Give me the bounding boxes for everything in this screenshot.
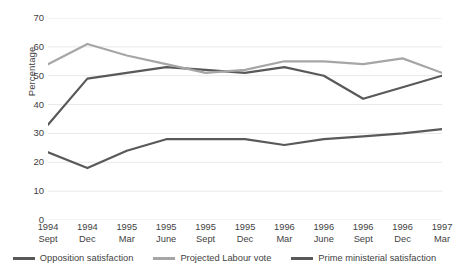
x-tick-year: 1996 (383, 222, 423, 234)
x-tick-label: 1994Sept (28, 222, 68, 245)
x-tick-month: Mar (107, 234, 147, 246)
x-tick-label: 1996Sept (343, 222, 383, 245)
plot-area (48, 18, 442, 220)
y-tick-label: 70 (18, 13, 44, 23)
y-tick-label: 10 (18, 186, 44, 196)
x-tick-year: 1994 (67, 222, 107, 234)
legend-item-0[interactable]: Opposition satisfaction (13, 253, 134, 264)
x-tick-month: June (304, 234, 344, 246)
x-tick-month: Mar (422, 234, 457, 246)
x-tick-year: 1995 (186, 222, 226, 234)
x-tick-month: Sept (186, 234, 226, 246)
legend-item-1[interactable]: Projected Labour vote (153, 253, 271, 264)
x-tick-month: Dec (383, 234, 423, 246)
x-tick-label: 1995Dec (225, 222, 265, 245)
x-axis-tick-labels: 1994Sept1994Dec1995Mar1995June1995Sept19… (48, 222, 442, 248)
y-tick-label: 40 (18, 100, 44, 110)
x-tick-year: 1995 (146, 222, 186, 234)
x-tick-label: 1997Mar (422, 222, 457, 245)
y-tick-label: 30 (18, 128, 44, 138)
series-line-1 (48, 44, 442, 73)
x-tick-label: 1995Sept (186, 222, 226, 245)
legend-swatch-icon (153, 257, 175, 260)
x-tick-label: 1994Dec (67, 222, 107, 245)
x-tick-year: 1996 (264, 222, 304, 234)
x-tick-month: Sept (28, 234, 68, 246)
x-tick-month: June (146, 234, 186, 246)
series-lines (48, 44, 442, 168)
x-tick-month: Sept (343, 234, 383, 246)
legend-label: Prime ministerial satisfaction (318, 253, 436, 264)
x-tick-year: 1994 (28, 222, 68, 234)
x-tick-year: 1997 (422, 222, 457, 234)
legend-label: Opposition satisfaction (40, 253, 134, 264)
legend-swatch-icon (13, 257, 35, 260)
x-tick-year: 1996 (304, 222, 344, 234)
y-tick-label: 60 (18, 42, 44, 52)
x-tick-label: 1996Dec (383, 222, 423, 245)
y-tick-label: 50 (18, 71, 44, 81)
x-tick-month: Dec (225, 234, 265, 246)
legend-item-2[interactable]: Prime ministerial satisfaction (291, 253, 436, 264)
x-tick-label: 1995Mar (107, 222, 147, 245)
gridlines (48, 18, 442, 220)
legend-label: Projected Labour vote (180, 253, 271, 264)
chart-legend: Opposition satisfactionProjected Labour … (0, 253, 449, 264)
x-tick-label: 1996June (304, 222, 344, 245)
plot-svg (48, 18, 442, 220)
x-tick-label: 1996Mar (264, 222, 304, 245)
x-tick-year: 1995 (225, 222, 265, 234)
x-tick-label: 1995June (146, 222, 186, 245)
y-tick-label: 20 (18, 157, 44, 167)
x-tick-year: 1996 (343, 222, 383, 234)
x-tick-year: 1995 (107, 222, 147, 234)
x-tick-month: Mar (264, 234, 304, 246)
y-axis-tick-labels: 706050403020100 (18, 18, 44, 220)
legend-swatch-icon (291, 257, 313, 260)
x-tick-month: Dec (67, 234, 107, 246)
